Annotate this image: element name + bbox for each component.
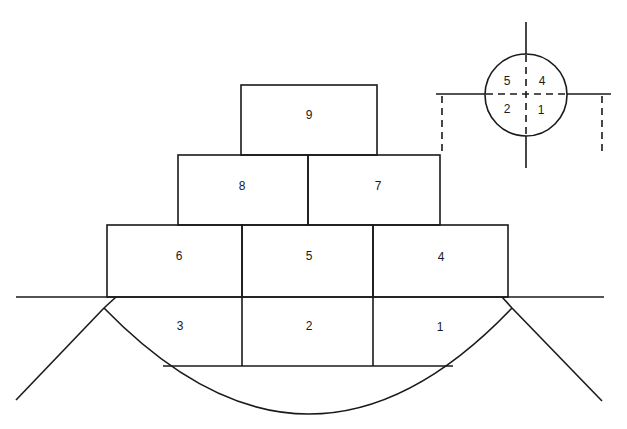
block-pyramid-diagram: 9 8 7 6 5 4 3 2 1 5 4 2 1 bbox=[0, 0, 627, 429]
block-7-label: 7 bbox=[375, 179, 382, 193]
block-6-label: 6 bbox=[176, 249, 183, 263]
inset-quadrant-1: 1 bbox=[538, 103, 545, 117]
tier-2 bbox=[178, 155, 440, 225]
block-4-label: 4 bbox=[438, 250, 445, 264]
block-1-label: 1 bbox=[437, 320, 444, 334]
inset-quadrant-5: 5 bbox=[504, 74, 511, 88]
right-slope bbox=[502, 297, 602, 401]
block-8-label: 8 bbox=[239, 179, 246, 193]
block-6 bbox=[107, 225, 242, 297]
inset-quadrant-4: 4 bbox=[539, 74, 546, 88]
block-2-label: 2 bbox=[306, 319, 313, 333]
block-5-label: 5 bbox=[306, 249, 313, 263]
left-slope bbox=[16, 297, 116, 400]
block-3-label: 3 bbox=[177, 319, 184, 333]
inset-quadrant-2: 2 bbox=[504, 102, 511, 116]
inset-circle-diagram: 5 4 2 1 bbox=[436, 22, 611, 168]
block-9-label: 9 bbox=[306, 108, 313, 122]
